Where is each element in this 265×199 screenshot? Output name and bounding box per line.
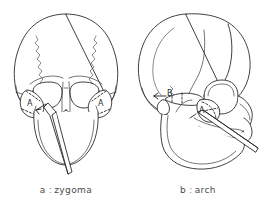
panel-zygoma-frontal: A A a:zygoma (0, 0, 132, 199)
panel-arch-lateral: B A b:arch (132, 0, 264, 199)
label-b: B (167, 89, 173, 98)
label-a-right: A (98, 99, 104, 108)
label-a-lateral: A (199, 106, 205, 115)
caption-a-key: a (40, 185, 46, 195)
caption-panel-a: a:zygoma (0, 185, 132, 195)
caption-b-key: b (180, 185, 186, 195)
caption-a-separator: : (49, 185, 52, 195)
caption-a-text: zygoma (54, 185, 92, 195)
frontal-skull-drawing: A A (0, 0, 132, 180)
lateral-skull-drawing: B A (132, 0, 264, 180)
label-a-left: A (27, 99, 33, 108)
caption-panel-b: b:arch (132, 185, 264, 195)
caption-b-text: arch (195, 185, 216, 195)
caption-b-separator: : (189, 185, 192, 195)
anatomy-figure: A A a:zygoma (0, 0, 265, 199)
